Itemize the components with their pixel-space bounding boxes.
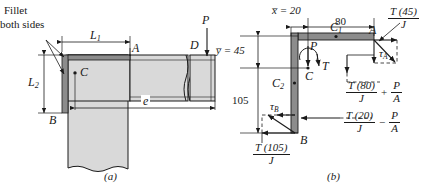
panel-a-geometry (38, 28, 215, 172)
frac-p-a-minus: P A (389, 110, 400, 134)
frac-t80-j: T (80) J (346, 80, 377, 104)
dim-label-L1: L1 (90, 29, 101, 43)
weld-fillet-top (66, 55, 130, 60)
dim-label-e: e (141, 95, 150, 107)
operator-minus: − (378, 117, 386, 128)
point-label-d-panel-a: D (190, 39, 199, 51)
point-label-a-panel-b: A (369, 24, 376, 36)
weld-label-c2: C2 (272, 77, 284, 91)
beam-segment-left (68, 55, 130, 101)
torque-label-t: T (322, 60, 329, 72)
dim-label-L2: L2 (28, 76, 39, 90)
stress-label-tau-a: τA (379, 48, 388, 61)
point-label-b-panel-b: B (300, 134, 307, 146)
point-label-c-panel-b: C (305, 70, 313, 82)
fillet-leader-1 (46, 40, 64, 57)
mechanical-engineering-figure: Fillet both sides L1 L2 A B C D P e (a) … (0, 0, 436, 190)
frac-t20-j: T (20) J (344, 110, 375, 134)
fillet-note-line1: Fillet (4, 5, 27, 16)
force-label-p-panel-b: P (310, 40, 317, 52)
beam-segment-middle (130, 55, 188, 101)
formula-tau-a-torsion: T (45) J (388, 6, 419, 30)
formula-point-a-combined: T (80) J + P A (346, 80, 402, 104)
dim-label-105: 105 (232, 95, 249, 106)
point-label-c-panel-a: C (80, 66, 88, 78)
point-label-b-panel-a: B (49, 114, 56, 126)
force-label-p-panel-a: P (202, 14, 209, 26)
weld-centroid-c2-dot (293, 81, 296, 84)
weld-fillet-left (62, 55, 68, 113)
panel-a-caption: (a) (104, 171, 117, 182)
frac-t45-j: T (45) J (388, 6, 419, 30)
dim-label-ybar: y̅ = 45 (216, 45, 245, 56)
point-label-a-panel-a: A (132, 42, 139, 54)
formula-tau-b-torsion: T (105) J (253, 142, 290, 166)
dim-label-xbar: x̅ = 20 (272, 5, 301, 16)
fillet-leader-2 (46, 40, 64, 74)
formula-point-b-combined: T (20) J − P A (344, 110, 400, 134)
stress-label-tau-b: τB (270, 101, 279, 114)
centroid-point-c (73, 71, 76, 74)
frac-t105-j: T (105) J (253, 142, 290, 166)
operator-plus: + (380, 87, 388, 98)
panel-b-caption: (b) (327, 171, 340, 182)
fillet-note-line2: both sides (0, 19, 44, 30)
frac-p-a-plus: P A (391, 80, 402, 104)
weld-label-c1: C1 (330, 21, 342, 35)
